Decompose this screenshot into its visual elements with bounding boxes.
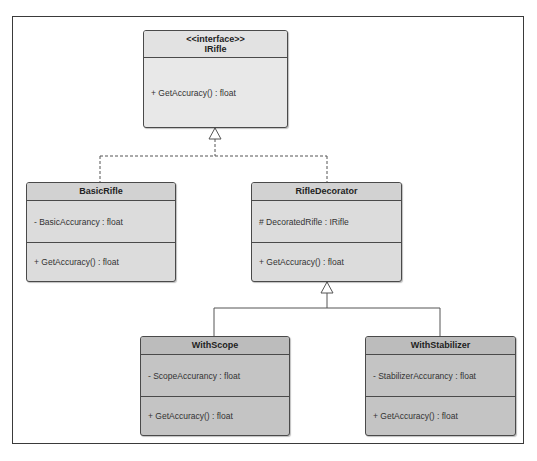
class-basicrifle[interactable]: BasicRifle - BasicAccurancy : float + Ge… — [26, 182, 176, 282]
class-name: WithScope — [192, 340, 238, 350]
attributes-section: # DecoratedRifle : IRifle — [252, 201, 401, 242]
method-item: + GetAccuracy() : float — [259, 257, 344, 267]
class-rifledecorator[interactable]: RifleDecorator # DecoratedRifle : IRifle… — [251, 182, 402, 282]
method-item: + GetAccuracy() : float — [34, 257, 119, 267]
method-item: + GetAccuracy() : float — [373, 411, 458, 421]
methods-section: + GetAccuracy() : float — [366, 396, 515, 435]
methods-section: + GetAccuracy() : float — [141, 396, 289, 435]
class-header: <<interface>> IRifle — [144, 31, 287, 58]
attributes-section: - BasicAccurancy : float — [27, 201, 175, 242]
method-item: + GetAccuracy() : float — [151, 88, 236, 98]
attributes-section: - ScopeAccurancy : float — [141, 355, 289, 396]
class-header: WithStabilizer — [366, 337, 515, 355]
class-irifle[interactable]: <<interface>> IRifle + GetAccuracy() : f… — [143, 30, 288, 128]
class-withscope[interactable]: WithScope - ScopeAccurancy : float + Get… — [140, 336, 290, 436]
class-header: BasicRifle — [27, 183, 175, 201]
class-name: WithStabilizer — [411, 340, 470, 350]
method-item: + GetAccuracy() : float — [148, 411, 233, 421]
attribute-item: - StabilizerAccurancy : float — [373, 371, 476, 381]
class-header: RifleDecorator — [252, 183, 401, 201]
class-name: IRifle — [144, 44, 287, 54]
generalization-arrowhead-icon — [321, 282, 333, 293]
class-withstabilizer[interactable]: WithStabilizer - StabilizerAccurancy : f… — [365, 336, 516, 436]
attributes-section: - StabilizerAccurancy : float — [366, 355, 515, 396]
realization-arrowhead-icon — [209, 128, 221, 139]
methods-section: + GetAccuracy() : float — [27, 242, 175, 281]
methods-section: + GetAccuracy() : float — [144, 58, 287, 128]
attribute-item: # DecoratedRifle : IRifle — [259, 217, 349, 227]
class-name: BasicRifle — [79, 186, 123, 196]
methods-section: + GetAccuracy() : float — [252, 242, 401, 281]
attribute-item: - ScopeAccurancy : float — [148, 371, 240, 381]
class-name: RifleDecorator — [295, 186, 357, 196]
attribute-item: - BasicAccurancy : float — [34, 217, 123, 227]
stereotype-label: <<interface>> — [144, 34, 287, 44]
class-header: WithScope — [141, 337, 289, 355]
